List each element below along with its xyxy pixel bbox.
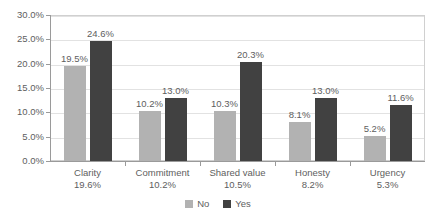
bar-value-label: 13.0% bbox=[154, 85, 198, 96]
legend-swatch-icon bbox=[223, 200, 231, 208]
legend-item-no[interactable]: No bbox=[185, 199, 209, 209]
y-axis-labels: 0.0%5.0%10.0%15.0%20.0%25.0%30.0% bbox=[0, 0, 44, 219]
x-tick-mark bbox=[200, 162, 201, 166]
x-tick-mark bbox=[350, 162, 351, 166]
y-tick-mark bbox=[46, 137, 50, 138]
y-tick-mark bbox=[46, 112, 50, 113]
legend-label: Yes bbox=[235, 199, 251, 209]
y-axis-line bbox=[50, 15, 51, 162]
y-tick-label: 15.0% bbox=[0, 83, 44, 93]
bar-yes-urgency bbox=[390, 105, 412, 161]
y-tick-label: 5.0% bbox=[0, 132, 44, 142]
y-tick-label: 0.0% bbox=[0, 156, 44, 166]
x-tick-mark bbox=[275, 162, 276, 166]
category-name: Shared value bbox=[200, 167, 275, 179]
category-sublabel: 10.5% bbox=[200, 179, 275, 191]
bar-chart: 0.0%5.0%10.0%15.0%20.0%25.0%30.0% 19.5%2… bbox=[0, 0, 436, 219]
category-name: Honesty bbox=[275, 167, 350, 179]
category-sublabel: 5.3% bbox=[350, 179, 425, 191]
legend-item-yes[interactable]: Yes bbox=[223, 199, 251, 209]
x-category-label: Commitment10.2% bbox=[125, 167, 200, 191]
category-name: Clarity bbox=[50, 167, 125, 179]
bar-value-label: 20.3% bbox=[229, 49, 273, 60]
bar-no-shared-value bbox=[214, 111, 236, 161]
y-tick-mark bbox=[46, 64, 50, 65]
bar-value-label: 24.6% bbox=[79, 28, 123, 39]
x-category-label: Urgency5.3% bbox=[350, 167, 425, 191]
x-category-label: Honesty8.2% bbox=[275, 167, 350, 191]
category-sublabel: 19.6% bbox=[50, 179, 125, 191]
chart-legend: NoYes bbox=[0, 199, 436, 209]
legend-swatch-icon bbox=[185, 200, 193, 208]
bar-yes-shared-value bbox=[240, 62, 262, 161]
y-tick-mark bbox=[46, 161, 50, 162]
bar-yes-honesty bbox=[315, 98, 337, 161]
x-tick-mark bbox=[125, 162, 126, 166]
x-category-label: Clarity19.6% bbox=[50, 167, 125, 191]
x-category-label: Shared value10.5% bbox=[200, 167, 275, 191]
y-tick-label: 10.0% bbox=[0, 107, 44, 117]
x-axis-line bbox=[50, 161, 425, 162]
legend-label: No bbox=[197, 199, 209, 209]
bar-yes-commitment bbox=[165, 98, 187, 161]
y-tick-mark bbox=[46, 15, 50, 16]
bar-value-label: 13.0% bbox=[304, 85, 348, 96]
bar-yes-clarity bbox=[90, 41, 112, 161]
y-tick-label: 30.0% bbox=[0, 10, 44, 20]
category-name: Urgency bbox=[350, 167, 425, 179]
y-tick-mark bbox=[46, 39, 50, 40]
y-tick-label: 25.0% bbox=[0, 34, 44, 44]
y-tick-label: 20.0% bbox=[0, 59, 44, 69]
gridline bbox=[51, 16, 424, 17]
category-sublabel: 8.2% bbox=[275, 179, 350, 191]
bar-no-clarity bbox=[64, 66, 86, 161]
bar-no-commitment bbox=[139, 111, 161, 161]
bar-no-urgency bbox=[364, 136, 386, 161]
bar-value-label: 11.6% bbox=[379, 92, 423, 103]
category-name: Commitment bbox=[125, 167, 200, 179]
category-sublabel: 10.2% bbox=[125, 179, 200, 191]
y-tick-mark bbox=[46, 88, 50, 89]
bar-no-honesty bbox=[289, 122, 311, 161]
